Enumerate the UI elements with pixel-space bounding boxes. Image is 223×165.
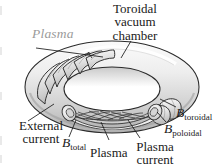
plasma-current-line2: current	[126, 153, 184, 165]
b-toroidal-label: Btoroidal	[176, 104, 212, 120]
chamber-title-line2: vacuum	[95, 15, 175, 28]
b-total-label: Btotal	[62, 134, 86, 150]
b-total-subscript: total	[70, 142, 86, 152]
b-total-symbol: B	[62, 135, 70, 150]
figure-canvas: Toroidal vacuum chamber Plasma External …	[0, 0, 223, 165]
external-current-line1: External	[5, 119, 77, 132]
chamber-title: Toroidal vacuum chamber	[95, 2, 175, 42]
plasma-bottom-label: Plasma	[90, 146, 128, 159]
b-poloidal-subscript: poloidal	[172, 128, 202, 138]
b-toroidal-subscript: toroidal	[184, 112, 212, 122]
chamber-title-line1: Toroidal	[95, 2, 175, 15]
b-poloidal-symbol: B	[164, 121, 172, 136]
plasma-current-line1: Plasma	[126, 140, 184, 153]
chamber-title-line3: chamber	[95, 29, 175, 42]
b-poloidal-label: Bpoloidal	[164, 120, 202, 136]
b-toroidal-symbol: B	[176, 105, 184, 120]
plasma-current-label: Plasma current	[126, 140, 184, 165]
plasma-top-label: Plasma	[32, 27, 74, 41]
